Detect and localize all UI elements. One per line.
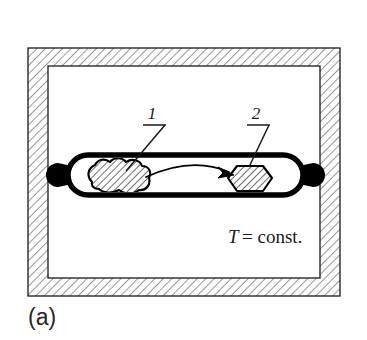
- panel-caption: (a): [28, 304, 56, 330]
- grown-single-crystal-hexagon: [228, 166, 272, 191]
- source-charge-polycrystalline: [88, 158, 150, 193]
- callout-1-label: 1: [148, 104, 157, 123]
- temperature-symbol: T: [228, 226, 240, 247]
- callout-2-label: 2: [252, 104, 261, 123]
- figure-container: 1 2 T = const. (a): [0, 0, 367, 340]
- temperature-relation: = const.: [242, 226, 302, 247]
- cvt-ampoule-diagram: 1 2 T = const. (a): [0, 0, 367, 340]
